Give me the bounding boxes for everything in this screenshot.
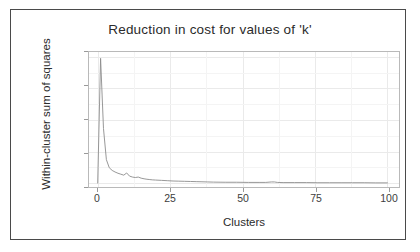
elbow-plot-chart: Reduction in cost for values of 'k' With… xyxy=(0,0,420,252)
x-tick-label: 25 xyxy=(150,192,190,204)
x-tick-mark xyxy=(389,188,390,192)
data-series-line xyxy=(89,52,399,187)
x-tick-label: 0 xyxy=(77,192,117,204)
x-tick-mark xyxy=(316,188,317,192)
plot-panel xyxy=(88,51,400,188)
y-axis-label: Within-cluster sum of squares xyxy=(40,24,52,204)
x-tick-label: 100 xyxy=(369,192,409,204)
chart-title: Reduction in cost for values of 'k' xyxy=(0,22,420,37)
x-axis-label: Clusters xyxy=(88,216,400,228)
x-tick-mark xyxy=(97,188,98,192)
x-tick-label: 75 xyxy=(296,192,336,204)
series-polyline xyxy=(98,58,388,183)
x-tick-mark xyxy=(243,188,244,192)
x-tick-label: 50 xyxy=(223,192,263,204)
x-tick-mark xyxy=(170,188,171,192)
